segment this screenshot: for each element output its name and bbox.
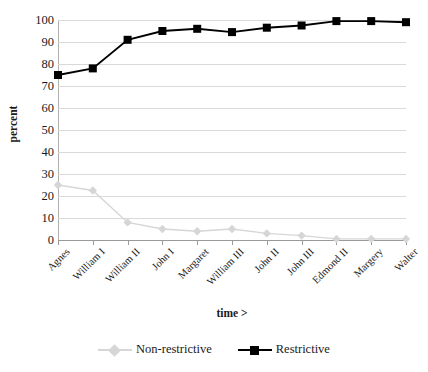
data-point-marker — [298, 22, 306, 30]
x-axis-tick — [302, 240, 303, 245]
y-axis-tick-label: 60 — [26, 102, 54, 115]
legend-diamond-icon — [98, 344, 132, 356]
legend-label: Restrictive — [276, 342, 330, 357]
data-point-marker — [158, 225, 166, 233]
y-axis-tick-label: 100 — [26, 14, 54, 27]
x-axis-category-labels: AgnesWilliam IWilliam IIJohn IMargaretWi… — [58, 246, 406, 306]
legend-label: Non-restrictive — [136, 342, 212, 357]
y-axis-tick-label: 30 — [26, 168, 54, 181]
line-chart: percent 1009080706050403020100 AgnesWill… — [0, 0, 428, 372]
data-point-marker — [367, 17, 375, 25]
data-point-marker — [158, 27, 166, 35]
series-non-restrictive — [54, 181, 410, 243]
y-axis-tick-label: 50 — [26, 124, 54, 137]
y-axis-tick-label: 10 — [26, 212, 54, 225]
x-axis-tick — [267, 240, 268, 245]
x-axis-tick — [93, 240, 94, 245]
data-point-marker — [228, 28, 236, 36]
y-axis-tick-label: 80 — [26, 58, 54, 71]
x-axis-tick — [128, 240, 129, 245]
data-point-marker — [297, 231, 305, 239]
data-point-marker — [124, 36, 132, 44]
data-point-marker — [367, 235, 375, 243]
data-point-marker — [193, 227, 201, 235]
x-axis-tick — [232, 240, 233, 245]
y-axis-tick-label: 40 — [26, 146, 54, 159]
data-point-marker — [263, 24, 271, 32]
plot-area — [58, 20, 406, 240]
data-point-marker — [54, 181, 62, 189]
legend-square-icon — [238, 344, 272, 356]
data-point-marker — [54, 71, 62, 79]
data-point-marker — [402, 235, 410, 243]
series-plot — [58, 20, 406, 240]
legend-item[interactable]: Non-restrictive — [98, 342, 212, 357]
data-point-marker — [332, 17, 340, 25]
y-axis-tick-label: 90 — [26, 36, 54, 49]
x-axis-tick — [197, 240, 198, 245]
data-point-marker — [193, 25, 201, 33]
data-point-marker — [332, 235, 340, 243]
data-point-marker — [89, 64, 97, 72]
x-axis-tick — [162, 240, 163, 245]
data-point-marker — [402, 18, 410, 26]
legend-item[interactable]: Restrictive — [238, 342, 330, 357]
x-axis-title: time > — [0, 307, 428, 319]
y-axis-title: percent — [7, 89, 19, 159]
y-axis-tick-label: 0 — [26, 234, 54, 247]
chart-legend: Non-restrictiveRestrictive — [0, 342, 428, 357]
y-axis-tick-label: 20 — [26, 190, 54, 203]
x-axis-tick — [58, 240, 59, 245]
y-axis-tick-label: 70 — [26, 80, 54, 93]
series-restrictive — [54, 17, 410, 79]
data-point-marker — [228, 225, 236, 233]
data-point-marker — [263, 229, 271, 237]
